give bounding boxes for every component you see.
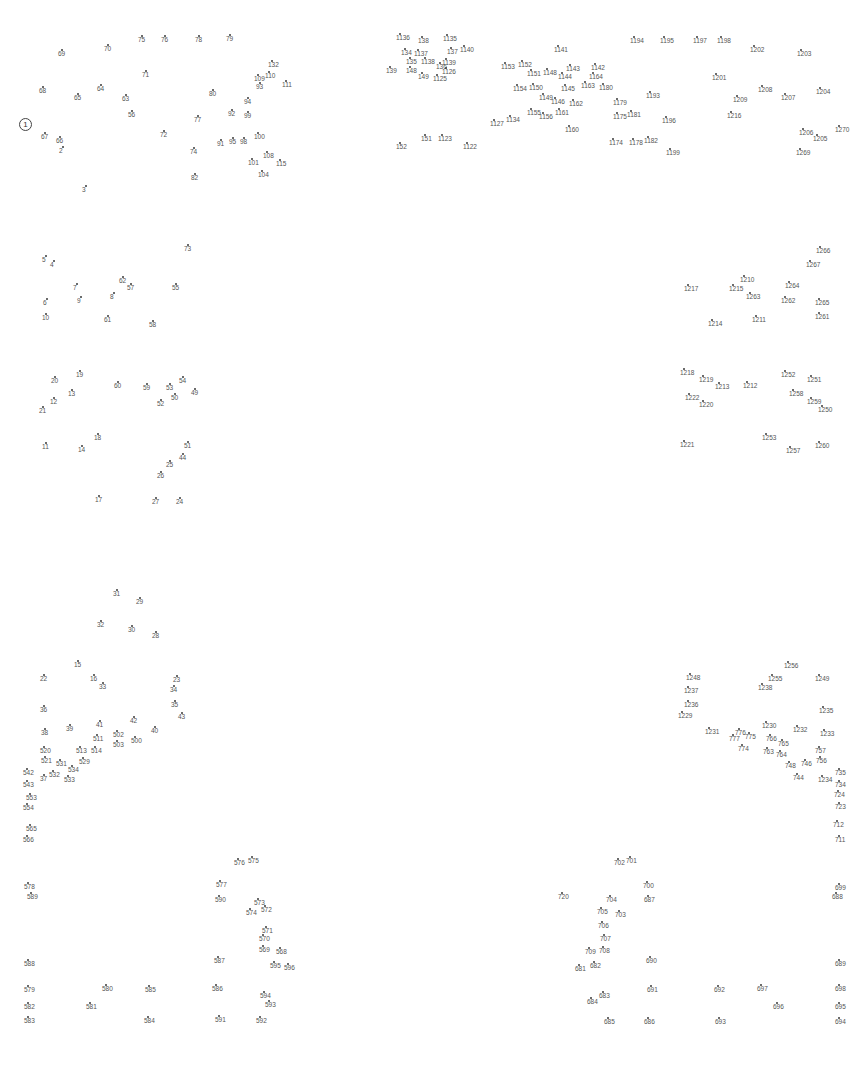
dot-label: 690 <box>646 958 657 965</box>
dot-label: 40 <box>151 728 158 735</box>
dot-label: 583 <box>24 1018 35 1025</box>
dot-label: 694 <box>835 1019 846 1026</box>
dot-label: 73 <box>184 246 191 253</box>
dot-label: 746 <box>801 761 812 768</box>
dot-label: 734 <box>835 782 846 789</box>
dot-label: 700 <box>643 883 654 890</box>
dot-label: 94 <box>244 99 251 106</box>
dot-label: 64 <box>97 86 104 93</box>
dot-label: 1180 <box>599 85 613 92</box>
dot-label: 685 <box>604 1019 615 1026</box>
dot-label: 1213 <box>715 384 729 391</box>
dot-label: 1140 <box>460 47 474 54</box>
dot-label: 104 <box>258 172 269 179</box>
dot-label: 61 <box>104 317 111 324</box>
dot-label: 514 <box>91 748 102 755</box>
dot-label: 529 <box>79 759 90 766</box>
dot-label: 596 <box>284 965 295 972</box>
dot-label: 2 <box>59 148 63 155</box>
dot-label: 531 <box>56 761 67 768</box>
dot-label: 18 <box>94 435 101 442</box>
dot-label: 98 <box>240 139 247 146</box>
dot-label: 532 <box>49 772 60 779</box>
dot-label: 1164 <box>589 74 603 81</box>
dot-label: 1269 <box>796 150 810 157</box>
dot-label: 569 <box>259 947 270 954</box>
dot-label: 701 <box>626 858 637 865</box>
dot-label: 3 <box>82 187 86 194</box>
dot-label: 149 <box>418 74 429 81</box>
dot-label: 22 <box>40 676 47 683</box>
dot-label: 1211 <box>752 317 766 324</box>
dot-label: 80 <box>209 91 216 98</box>
dot-label: 12 <box>50 399 57 406</box>
dot-label: 111 <box>282 82 292 89</box>
dot-label: 693 <box>715 1019 726 1026</box>
dot-label: 1123 <box>438 136 452 143</box>
dot-label: 570 <box>259 936 270 943</box>
dot-label: 1195 <box>660 38 674 45</box>
dot-label: 724 <box>834 792 845 799</box>
dot-label: 42 <box>130 718 137 725</box>
dot-label: 110 <box>265 73 275 80</box>
dot-label: 70 <box>104 46 111 53</box>
dot-label: 681 <box>575 966 586 973</box>
dot-label: 575 <box>248 858 259 865</box>
dot-label: 14 <box>78 447 85 454</box>
dot-label: 576 <box>234 860 245 867</box>
dot-label: 687 <box>644 897 655 904</box>
dot-label: 1209 <box>733 97 747 104</box>
dot-label: 135 <box>406 59 417 66</box>
dot-label: 1238 <box>758 685 772 692</box>
dot-label: 29 <box>136 599 143 606</box>
dot-label: 34 <box>170 687 177 694</box>
dot-label: 1182 <box>644 138 658 145</box>
dot-label: 1255 <box>768 676 782 683</box>
dot-label: 748 <box>785 763 796 770</box>
dot-label: 1151 <box>527 71 541 78</box>
dot-label: 1134 <box>506 117 520 124</box>
dot-label: 1260 <box>815 443 829 450</box>
dot-label: 1181 <box>627 112 641 119</box>
dot-label: 590 <box>215 897 226 904</box>
dot-label: 572 <box>261 907 272 914</box>
dot-label: 1154 <box>513 86 527 93</box>
dot-label: 76 <box>161 37 168 44</box>
dot-label: 66 <box>56 138 63 145</box>
dot-label: 91 <box>217 141 224 148</box>
dot-label: 1262 <box>781 298 795 305</box>
dot-label: 51 <box>184 443 191 450</box>
dot-label: 79 <box>226 36 233 43</box>
dot-label: 39 <box>66 726 73 733</box>
dot-label: 82 <box>191 175 198 182</box>
dot-label: 138 <box>418 38 429 45</box>
dot-label: 1234 <box>818 777 832 784</box>
dot-label: 74 <box>190 149 197 156</box>
dot-label: 93 <box>256 84 263 91</box>
dot-label: 1264 <box>785 283 799 290</box>
dot-label: 1249 <box>815 676 829 683</box>
dot-label: 100 <box>254 134 265 141</box>
dot-label: 1153 <box>501 64 515 71</box>
dot-label: 1215 <box>729 286 743 293</box>
dot-label: 36 <box>40 707 47 714</box>
dot-label: 578 <box>24 884 35 891</box>
dot-label: 115 <box>276 161 286 168</box>
dot-label: 1216 <box>727 113 741 120</box>
dot-label: 1193 <box>646 93 660 100</box>
dot-label: 1251 <box>807 377 821 384</box>
dot-label: 584 <box>144 1018 155 1025</box>
dot-label: 1248 <box>686 675 700 682</box>
dot-label: 502 <box>113 732 124 739</box>
dot-label: 756 <box>816 758 827 765</box>
dot-label: 1141 <box>554 47 568 54</box>
dot-label: 696 <box>773 1004 784 1011</box>
dot-label: 1210 <box>740 277 754 284</box>
dot-label: 1146 <box>551 99 565 106</box>
dot-label: 577 <box>216 882 227 889</box>
dot-label: 1221 <box>680 442 694 449</box>
dot-label: 574 <box>246 910 257 917</box>
dot-label: 11 <box>42 444 49 451</box>
dot-label: 1253 <box>762 435 776 442</box>
dot-label: 132 <box>268 62 279 69</box>
